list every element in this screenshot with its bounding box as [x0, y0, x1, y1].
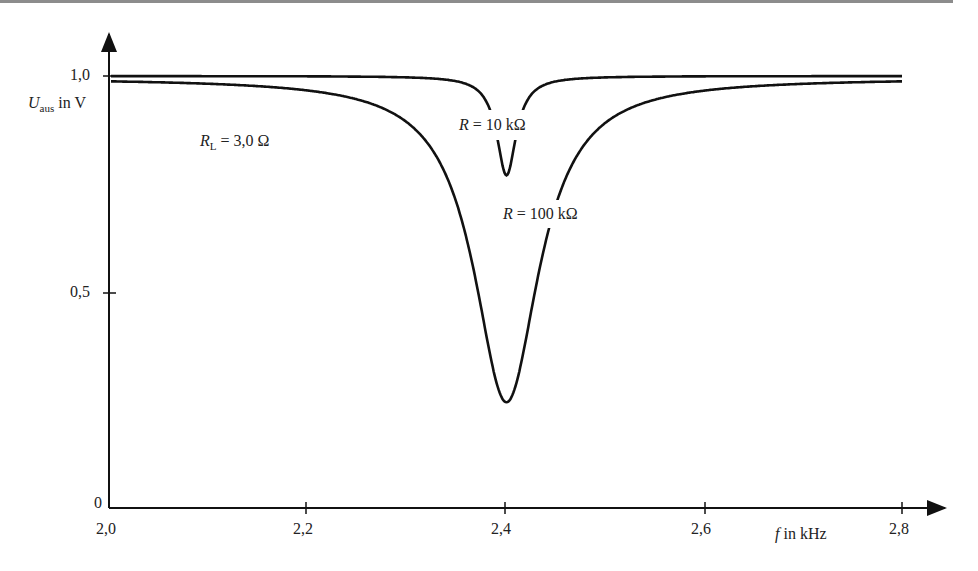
rl-annotation: RL = 3,0 Ω — [200, 132, 269, 152]
r100k-annotation: R = 100 kΩ — [503, 205, 578, 223]
x-tick-22: 2,2 — [293, 520, 313, 538]
x-tick-20: 2,0 — [96, 520, 116, 538]
r10k-annotation: R = 10 kΩ — [459, 116, 526, 134]
y-tick-05: 0,5 — [70, 283, 90, 301]
x-tick-26: 2,6 — [691, 520, 711, 538]
y-tick-0: 0 — [94, 494, 102, 512]
y-axis-label: Uaus in V — [28, 94, 86, 114]
x-axis-label: f in kHz — [775, 525, 827, 543]
y-tick-1: 1,0 — [70, 66, 90, 84]
x-tick-24: 2,4 — [491, 520, 511, 538]
x-tick-28: 2,8 — [889, 520, 909, 538]
chart-svg — [0, 0, 978, 571]
